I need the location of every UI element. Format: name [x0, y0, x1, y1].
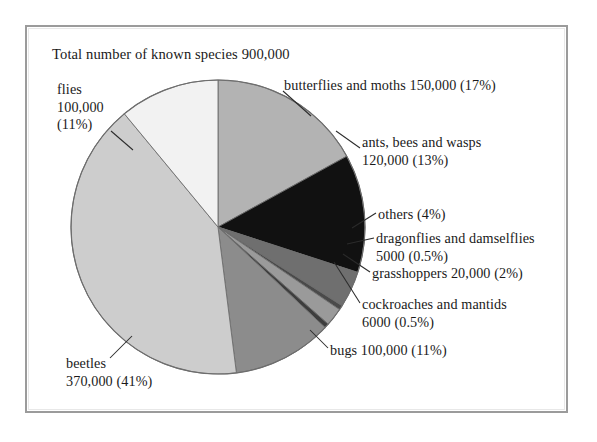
pie-slice-group [71, 80, 365, 374]
pie-chart-figure: Total number of known species 900,000 fl… [0, 0, 597, 442]
slice-label-cockroaches: cockroaches and mantids 6000 (0.5%) [362, 296, 507, 331]
slice-label-grasshoppers: grasshoppers 20,000 (2%) [372, 265, 523, 283]
slice-label-ants: ants, bees and wasps 120,000 (13%) [362, 134, 481, 169]
slice-label-butterflies: butterflies and moths 150,000 (17%) [284, 77, 496, 95]
slice-label-others: others (4%) [378, 206, 446, 224]
slice-label-bugs: bugs 100,000 (11%) [330, 342, 447, 360]
chart-title: Total number of known species 900,000 [52, 46, 290, 64]
slice-label-dragonflies: dragonflies and damselflies 5000 (0.5%) [376, 230, 535, 265]
slice-label-beetles: beetles 370,000 (41%) [66, 355, 152, 390]
slice-label-flies: flies 100,000 (11%) [57, 81, 104, 134]
